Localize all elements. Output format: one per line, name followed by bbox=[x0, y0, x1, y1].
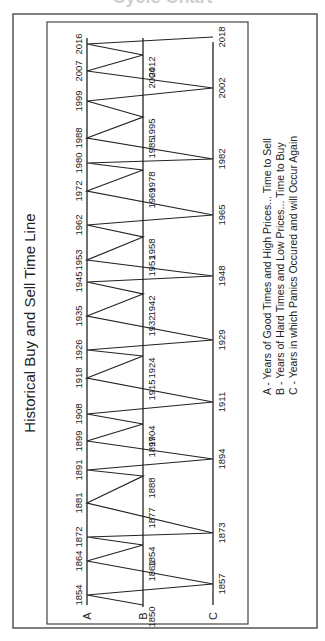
year-label-b-crossing: 1915 bbox=[146, 379, 157, 400]
year-label-a: 1891 bbox=[73, 459, 84, 480]
year-label-c: 1929 bbox=[216, 329, 227, 350]
year-label-a: 1988 bbox=[73, 127, 84, 148]
legend: A - Years of Good Times and High Prices.… bbox=[261, 136, 299, 395]
year-label-a: 1999 bbox=[73, 90, 84, 111]
year-label-a: 1972 bbox=[73, 180, 84, 201]
cycle-chart: Historical Buy and Sell Time Line 185018… bbox=[0, 0, 325, 641]
year-label-a: 1962 bbox=[73, 214, 84, 235]
year-label-b-crossing: 1951 bbox=[146, 255, 157, 276]
year-label-b-crossing: 1877 bbox=[146, 507, 157, 528]
year-label-a: 1881 bbox=[73, 492, 84, 513]
year-label-a: 1908 bbox=[73, 403, 84, 424]
year-label-b: 1924 bbox=[146, 357, 157, 378]
axis-key-c: C bbox=[207, 612, 219, 620]
year-label-a: 1953 bbox=[73, 249, 84, 270]
year-label-b-crossing: 1897 bbox=[146, 436, 157, 457]
year-label-a: 1854 bbox=[73, 584, 84, 605]
legend-item-b: B - Years of Hard Times and Low Prices..… bbox=[274, 142, 286, 395]
year-label-a: 1918 bbox=[73, 367, 84, 388]
year-label-c: 1965 bbox=[216, 204, 227, 225]
year-label-c: 1982 bbox=[216, 148, 227, 169]
chart-title: Historical Buy and Sell Time Line bbox=[21, 213, 38, 432]
year-label-b: 1995 bbox=[146, 118, 157, 139]
year-label-c: 1911 bbox=[216, 392, 227, 412]
year-label-a: 1926 bbox=[73, 339, 84, 360]
year-label-b-crossing: 2004 bbox=[146, 67, 157, 88]
year-labels: 1850185418571864185418721873188118881891… bbox=[73, 26, 227, 627]
year-label-c: 1873 bbox=[216, 522, 227, 543]
year-label-a: 1899 bbox=[73, 430, 84, 451]
axis-key-a: A bbox=[81, 612, 93, 620]
year-label-c: 1894 bbox=[216, 448, 227, 469]
year-label-b: 1888 bbox=[146, 477, 157, 498]
year-label-b-crossing: 1861 bbox=[146, 560, 157, 581]
year-label-a: 1980 bbox=[73, 152, 84, 173]
year-label-a: 1935 bbox=[73, 305, 84, 326]
legend-item-c: C - Years in which Panics Occured and wi… bbox=[287, 136, 299, 395]
year-label-a: 2007 bbox=[73, 60, 84, 81]
year-label-a: 2016 bbox=[73, 33, 84, 54]
legend-item-a: A - Years of Good Times and High Prices.… bbox=[261, 138, 273, 395]
year-label-c: 2018 bbox=[216, 26, 227, 47]
year-label-c: 2002 bbox=[216, 77, 227, 98]
year-label-b-crossing: 1969 bbox=[146, 187, 157, 208]
year-label-b-crossing: 1932 bbox=[146, 315, 157, 336]
year-label-a: 1872 bbox=[73, 526, 84, 547]
year-label-b-crossing: 1985 bbox=[146, 137, 157, 158]
year-label-a: 1864 bbox=[73, 550, 84, 571]
year-label-c: 1857 bbox=[216, 573, 227, 594]
year-label-c: 1948 bbox=[216, 265, 227, 286]
axis-key-b: B bbox=[137, 612, 149, 619]
year-label-a: 1945 bbox=[73, 271, 84, 292]
year-label-b: 1942 bbox=[146, 295, 157, 316]
